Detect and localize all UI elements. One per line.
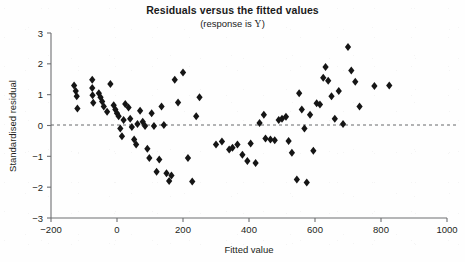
y-tick-label: 0 [38,120,43,131]
data-point [294,175,300,183]
data-point [299,105,305,113]
data-point [244,157,250,165]
data-point [180,68,186,76]
data-point [151,122,157,130]
data-point [296,89,302,97]
data-point [248,139,254,147]
data-point-group [71,43,392,187]
data-point [156,155,162,163]
data-point [196,93,202,101]
data-point [356,102,362,110]
data-point [328,92,334,100]
data-point [310,147,316,155]
data-point [107,80,113,88]
data-point [345,43,351,51]
data-point [340,120,346,128]
y-tick-label: −2 [32,182,43,193]
scatter-plot-canvas: −3−2−10123 −20002004006008001000 Standar… [0,0,465,262]
data-point [348,67,354,75]
data-point [289,149,295,157]
data-point [163,169,169,177]
data-point [120,116,126,124]
data-point [261,111,267,119]
data-point [119,132,125,140]
data-point [386,81,392,89]
y-axis: −3−2−10123 [32,28,51,224]
data-point [149,109,155,117]
data-point [172,76,178,84]
data-point [90,99,96,107]
y-tick-label: 1 [38,89,43,100]
data-point [127,115,133,123]
data-point [189,178,195,186]
x-tick-label: 0 [114,224,119,235]
data-point [134,120,140,128]
data-point [129,123,135,131]
x-tick-label: 1000 [436,224,457,235]
data-point [161,121,167,129]
data-point [89,76,95,84]
data-point [193,112,199,120]
data-point [252,159,258,167]
data-point [304,179,310,187]
data-point [285,137,291,145]
y-axis-title: Standardised residual [7,80,18,172]
data-point [175,98,181,106]
data-point [144,145,150,153]
data-point [146,154,152,162]
data-point [117,125,123,133]
data-point [332,115,338,123]
x-tick-label: 400 [241,224,257,235]
data-point [239,151,245,159]
data-point [89,91,95,99]
y-tick-label: 2 [38,58,43,69]
data-point [272,136,278,144]
data-point [137,107,143,115]
y-tick-label: 3 [38,28,43,39]
x-axis-title: Fitted value [224,244,273,255]
data-point [301,125,307,133]
data-point [322,63,328,71]
x-tick-label: −200 [40,224,61,235]
data-point [256,119,262,127]
y-tick-label: −3 [32,213,43,224]
data-point [307,111,313,119]
data-point [336,87,342,95]
data-point [153,168,159,176]
y-axis-ticks: −3−2−10123 [32,28,51,224]
data-point [185,154,191,162]
data-point [219,138,225,146]
x-tick-label: 800 [373,224,389,235]
data-point [371,82,377,90]
data-point [158,102,164,110]
data-point [89,84,95,92]
x-axis-ticks: −20002004006008001000 [40,218,457,235]
data-point [352,78,358,86]
data-point [74,105,80,113]
data-point [262,134,268,142]
residual-plot-figure: Residuals versus the fitted values (resp… [0,0,465,262]
x-tick-label: 200 [175,224,191,235]
x-tick-label: 600 [307,224,323,235]
data-point [213,141,219,149]
x-axis: −20002004006008001000 [40,218,457,235]
y-tick-label: −1 [32,151,43,162]
